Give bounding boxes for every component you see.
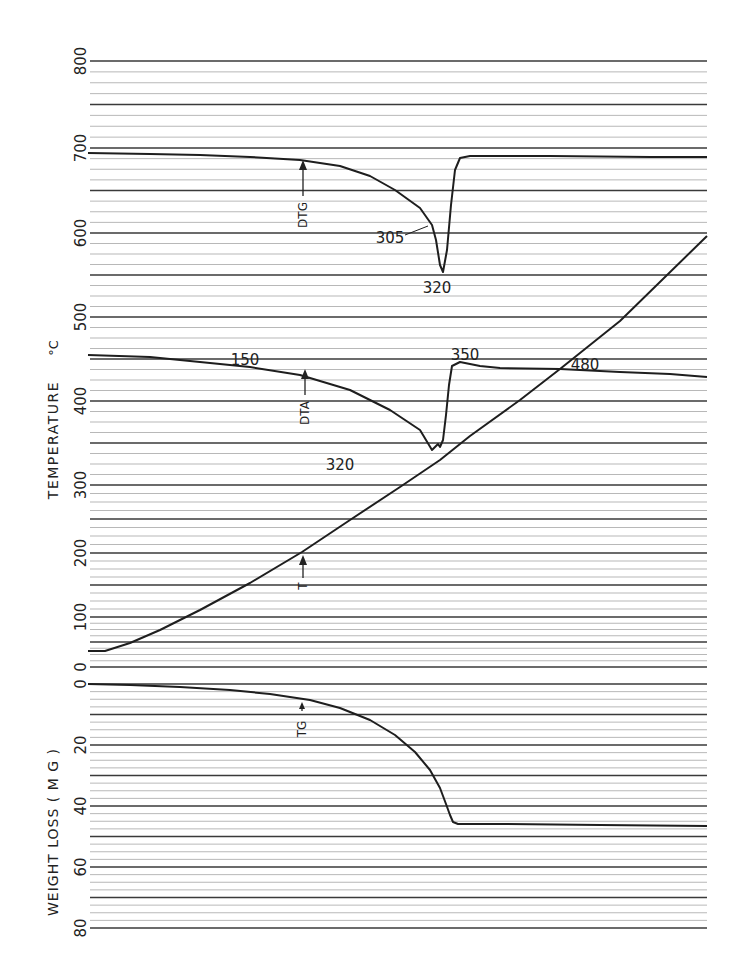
tick-200: 200 bbox=[72, 539, 90, 568]
dtg-320-label: 320 bbox=[423, 279, 452, 297]
thermal-analysis-chart: 800 700 600 500 400 300 200 100 0 0 20 4… bbox=[0, 0, 747, 980]
tick-400: 400 bbox=[72, 387, 90, 416]
dta-480-label: 480 bbox=[571, 356, 600, 374]
t-arrow: T bbox=[296, 555, 310, 591]
dtg-305-label: 305 bbox=[376, 229, 405, 247]
gridlines bbox=[90, 61, 707, 928]
dta-320-label: 320 bbox=[326, 456, 355, 474]
tick-500: 500 bbox=[72, 303, 90, 332]
tick-20: 20 bbox=[72, 735, 90, 754]
tg-curve bbox=[88, 684, 707, 826]
tick-40: 40 bbox=[72, 796, 90, 815]
t-curve-label: T bbox=[296, 582, 310, 591]
dtg-curve-label: DTG bbox=[296, 202, 310, 228]
tick-100: 100 bbox=[72, 603, 90, 632]
curve-arrow-labels: DTG DTA T TG bbox=[295, 160, 312, 738]
tick-60: 60 bbox=[72, 857, 90, 876]
tick-600: 600 bbox=[72, 219, 90, 248]
tick-80: 80 bbox=[72, 918, 90, 937]
tick-0-temp: 0 bbox=[72, 662, 90, 672]
temperature-axis-ticks: 800 700 600 500 400 300 200 100 0 bbox=[72, 47, 90, 672]
tg-curve-label: TG bbox=[295, 721, 309, 739]
temperature-axis-label: TEMPERATURE bbox=[45, 381, 61, 500]
chart-canvas: 800 700 600 500 400 300 200 100 0 0 20 4… bbox=[0, 0, 747, 980]
weight-axis-ticks: 0 20 40 60 80 bbox=[72, 679, 90, 937]
dta-curve-label: DTA bbox=[298, 400, 312, 425]
tg-arrow: TG bbox=[295, 702, 309, 738]
dta-350-label: 350 bbox=[451, 346, 480, 364]
tick-800: 800 bbox=[72, 47, 90, 76]
tick-300: 300 bbox=[72, 471, 90, 500]
temperature-unit-label: °C bbox=[46, 340, 61, 356]
curve-annotations: 305 320 150 320 350 480 bbox=[231, 229, 600, 474]
tick-700: 700 bbox=[72, 134, 90, 163]
tick-0-weight: 0 bbox=[72, 679, 90, 689]
dtg-arrow: DTG bbox=[296, 160, 310, 228]
dta-150-label: 150 bbox=[231, 351, 260, 369]
weight-loss-axis-label: WEIGHT LOSS ( M G ) bbox=[45, 748, 61, 916]
